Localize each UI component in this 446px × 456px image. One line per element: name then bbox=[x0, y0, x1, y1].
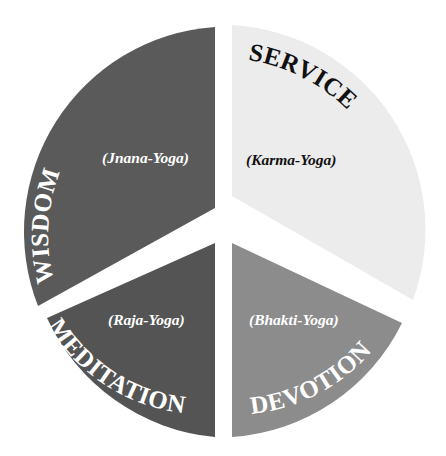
devotion-subtitle: (Bhakti-Yoga) bbox=[249, 311, 339, 329]
wisdom-subtitle: (Jnana-Yoga) bbox=[102, 149, 189, 167]
four-paths-of-yoga-diagram: WISDOM (Jnana-Yoga) SERVICE (Karma-Yoga)… bbox=[0, 0, 446, 456]
meditation-subtitle: (Raja-Yoga) bbox=[108, 311, 185, 329]
service-subtitle: (Karma-Yoga) bbox=[246, 151, 336, 169]
